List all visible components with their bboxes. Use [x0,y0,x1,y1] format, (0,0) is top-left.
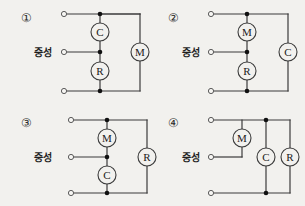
option-1-neutral-label: 중성 [34,46,52,58]
option-1-terminal-top [61,11,66,16]
option-4-terminal-top [208,117,213,122]
option-3-marker: ③ [21,116,32,130]
option-2-terminal-top [208,11,213,16]
option-1-junction-top [98,12,103,17]
option-4-terminal-neutral [208,154,213,159]
option-2-junction-bottom [245,89,250,94]
option-4-component-parallel-2-letter: R [286,151,294,163]
option-1-terminal-neutral [61,49,66,54]
option-4-neutral-label: 중성 [182,151,200,163]
option-2-terminal-neutral [208,49,213,54]
option-3-terminal-neutral [68,154,73,159]
option-3-junction-middle [105,155,110,160]
option-2-neutral-label: 중성 [182,46,200,58]
option-4-junction-bottom [264,191,269,196]
option-3-component-lower-letter: C [103,169,110,181]
option-1-junction-middle [98,50,103,55]
option-3-diagram: ③ 중성 M C R [21,116,156,196]
figure-sheet: ① 중성 C [0,0,305,206]
circuit-figure: ① 중성 C [0,0,305,206]
option-4-diagram: ④ 중성 M C [168,116,299,196]
option-3-component-right-letter: R [143,151,151,163]
option-2-component-upper-letter: M [242,26,252,38]
option-1-terminal-bottom [61,88,66,93]
option-4-terminal-bottom [208,190,213,195]
option-3-terminal-bottom [68,190,73,195]
option-1-component-right-letter: M [135,46,145,58]
option-1-component-lower-letter: R [96,65,104,77]
option-2-junction-top [245,12,250,17]
option-2-component-lower-letter: R [243,65,251,77]
option-2-junction-middle [245,50,250,55]
option-1-marker: ① [21,11,32,25]
option-4-marker: ④ [168,116,179,130]
option-4-component-parallel-1-letter: C [262,151,269,163]
option-2-marker: ② [168,11,179,25]
option-3-junction-bottom [105,191,110,196]
option-3-junction-top [105,118,110,123]
option-3-terminal-top [68,117,73,122]
option-2-terminal-bottom [208,88,213,93]
option-1-junction-bottom [98,89,103,94]
option-4-component-hanging-letter: M [237,132,247,144]
option-3-neutral-label: 중성 [34,151,52,163]
option-2-diagram: ② 중성 M R C [168,11,297,94]
option-4-junction-top [264,118,269,123]
option-2-component-right-letter: C [284,46,291,58]
option-1-component-upper-letter: C [96,26,103,38]
option-3-component-upper-letter: M [102,132,112,144]
option-1-diagram: ① 중성 C [21,11,149,94]
